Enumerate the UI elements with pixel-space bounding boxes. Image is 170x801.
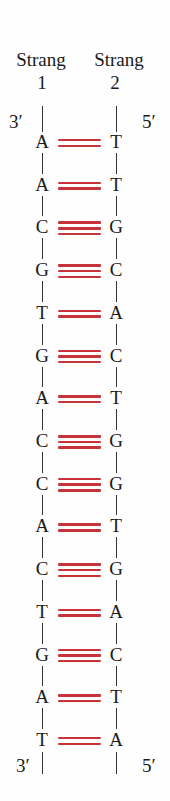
triple-hydrogen-bond (58, 478, 101, 492)
base-strand-1: T (34, 303, 50, 322)
triple-hydrogen-bond (58, 563, 101, 577)
hydrogen-bond-line (58, 276, 101, 279)
hydrogen-bond-line (58, 310, 101, 313)
strand-1-top-end-label: 3′ (9, 112, 23, 131)
hydrogen-bond-line (58, 654, 101, 657)
hydrogen-bond-line (58, 575, 101, 578)
hydrogen-bond-line (58, 660, 101, 663)
hydrogen-bond-line (58, 737, 101, 740)
triple-hydrogen-bond (58, 435, 101, 449)
strand-1-backbone-segment (42, 452, 43, 473)
base-strand-1: C (34, 559, 50, 578)
hydrogen-bond-line (58, 350, 101, 353)
strand-1-backbone-segment (42, 238, 43, 259)
strand-1-backbone-segment (42, 153, 43, 174)
base-strand-1: A (34, 516, 50, 535)
base-strand-2: G (108, 217, 124, 236)
strand-2-backbone-segment (116, 367, 117, 388)
hydrogen-bond-line (58, 489, 101, 492)
hydrogen-bond-line (58, 270, 101, 273)
strand-1-backbone-segment (42, 281, 43, 302)
hydrogen-bond-line (58, 441, 101, 444)
strand-1-backbone-segment (42, 367, 43, 388)
hydrogen-bond-line (58, 145, 101, 148)
base-strand-1: G (34, 260, 50, 279)
base-strand-1: C (34, 217, 50, 236)
base-strand-2: A (108, 730, 124, 749)
strand-2-title: Strang (84, 50, 154, 69)
base-strand-2: T (108, 132, 124, 151)
strand-2-backbone-segment (116, 495, 117, 516)
base-strand-1: G (34, 645, 50, 664)
hydrogen-bond-line (58, 563, 101, 566)
triple-hydrogen-bond (58, 350, 101, 364)
triple-hydrogen-bond (58, 264, 101, 278)
base-strand-1: A (34, 687, 50, 706)
strand-2-backbone-segment (116, 153, 117, 174)
strand-1-number: 1 (27, 73, 57, 92)
strand-1-title: Strang (6, 50, 76, 69)
strand-1-bottom-end-label: 3′ (16, 756, 30, 775)
base-strand-2: G (108, 431, 124, 450)
hydrogen-bond-line (58, 182, 101, 185)
hydrogen-bond-line (58, 355, 101, 358)
strand-1-backbone-segment (42, 324, 43, 345)
hydrogen-bond-line (58, 435, 101, 438)
hydrogen-bond-line (58, 700, 101, 703)
base-strand-2: T (108, 175, 124, 194)
strand-2-backbone-top (116, 106, 117, 132)
strand-2-backbone-segment (116, 580, 117, 601)
strand-2-number: 2 (100, 73, 130, 92)
strand-1-backbone-segment (42, 623, 43, 644)
strand-2-backbone-segment (116, 238, 117, 259)
hydrogen-bond-line (58, 523, 101, 526)
base-strand-2: C (108, 260, 124, 279)
base-strand-1: C (34, 474, 50, 493)
base-strand-2: T (108, 388, 124, 407)
base-strand-1: A (34, 388, 50, 407)
base-strand-1: C (34, 431, 50, 450)
strand-2-backbone-segment (116, 409, 117, 430)
base-strand-1: A (34, 132, 50, 151)
strand-2-backbone-bottom (116, 752, 117, 774)
strand-1-backbone-segment (42, 495, 43, 516)
strand-2-backbone-segment (116, 708, 117, 729)
double-hydrogen-bond (58, 395, 101, 403)
double-hydrogen-bond (58, 694, 101, 702)
hydrogen-bond-line (58, 609, 101, 612)
base-strand-2: T (108, 687, 124, 706)
double-hydrogen-bond (58, 310, 101, 318)
base-strand-2: G (108, 559, 124, 578)
hydrogen-bond-line (58, 569, 101, 572)
triple-hydrogen-bond (58, 221, 101, 235)
base-strand-2: A (108, 303, 124, 322)
strand-2-top-end-label: 5′ (142, 112, 156, 131)
hydrogen-bond-line (58, 233, 101, 236)
strand-2-backbone-segment (116, 666, 117, 687)
strand-2-backbone-segment (116, 623, 117, 644)
base-strand-1: G (34, 346, 50, 365)
hydrogen-bond-line (58, 614, 101, 617)
base-strand-1: T (34, 602, 50, 621)
base-strand-2: C (108, 645, 124, 664)
double-hydrogen-bond (58, 523, 101, 531)
hydrogen-bond-line (58, 483, 101, 486)
hydrogen-bond-line (58, 221, 101, 224)
hydrogen-bond-line (58, 395, 101, 398)
double-hydrogen-bond (58, 737, 101, 745)
hydrogen-bond-line (58, 446, 101, 449)
strand-2-backbone-segment (116, 537, 117, 558)
strand-2-bottom-end-label: 5′ (142, 756, 156, 775)
triple-hydrogen-bond (58, 649, 101, 663)
hydrogen-bond-line (58, 264, 101, 267)
base-strand-2: T (108, 516, 124, 535)
hydrogen-bond-line (58, 694, 101, 697)
strand-2-backbone-segment (116, 324, 117, 345)
strand-2-backbone-segment (116, 281, 117, 302)
base-strand-1: T (34, 730, 50, 749)
hydrogen-bond-line (58, 649, 101, 652)
strand-1-backbone-segment (42, 580, 43, 601)
strand-1-backbone-bottom (42, 752, 43, 774)
hydrogen-bond-line (58, 187, 101, 190)
strand-1-backbone-segment (42, 196, 43, 217)
